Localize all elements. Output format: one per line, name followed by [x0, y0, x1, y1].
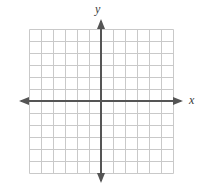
y-axis-label: y [95, 3, 100, 15]
x-axis-arrow-right-icon [173, 97, 183, 105]
x-axis-label: x [189, 94, 194, 106]
y-axis-arrow-down-icon [97, 173, 105, 183]
coordinate-plane-figure: y x [0, 0, 211, 190]
coordinate-plane-svg [0, 0, 211, 190]
y-axis-arrow-up-icon [97, 19, 105, 29]
x-axis-arrow-left-icon [19, 97, 29, 105]
